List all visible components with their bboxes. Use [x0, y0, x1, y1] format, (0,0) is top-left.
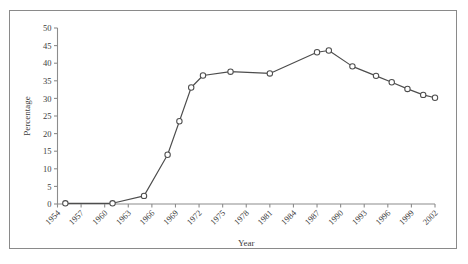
x-axis-tick-label: 1996 [373, 208, 392, 227]
y-axis-tick-label: 40 [43, 58, 52, 68]
x-axis-tick-label: 1990 [326, 208, 345, 227]
y-axis-tick-label: 0 [47, 199, 51, 209]
x-axis-tick-label: 1993 [350, 208, 369, 227]
chart-figure: 0510152025303540455019541957196019631966… [0, 0, 468, 264]
x-axis-tick-label: 1984 [279, 207, 299, 227]
y-axis-tick-label: 20 [43, 129, 52, 139]
data-point-marker [228, 69, 233, 74]
x-axis-tick-label: 1969 [161, 208, 180, 227]
line-chart-canvas: 0510152025303540455019541957196019631966… [0, 0, 468, 264]
data-point-marker [314, 50, 319, 55]
x-axis-tick-label: 2002 [421, 208, 440, 227]
x-axis-tick-label: 1978 [232, 208, 251, 227]
data-point-marker [177, 119, 182, 124]
data-point-marker [389, 80, 394, 85]
y-axis-title: Percentage [22, 96, 32, 135]
x-axis-tick-label: 1981 [255, 208, 274, 227]
x-axis-tick-label: 1954 [43, 207, 63, 227]
data-point-marker [141, 193, 146, 198]
x-axis-tick-label: 1960 [90, 208, 109, 227]
x-axis-tick-label: 1966 [137, 208, 156, 227]
y-axis-tick-label: 25 [43, 111, 52, 121]
y-axis-tick-label: 10 [43, 164, 52, 174]
data-point-marker [421, 92, 426, 97]
y-axis-tick-label: 15 [43, 146, 52, 156]
data-point-marker [63, 201, 68, 206]
y-axis-tick-label: 50 [43, 23, 52, 33]
y-axis-tick-label: 5 [47, 182, 51, 192]
data-point-marker [267, 71, 272, 76]
x-axis-tick-label: 1987 [303, 208, 322, 227]
y-axis-tick-label: 30 [43, 94, 52, 104]
data-point-marker [350, 64, 355, 69]
data-point-marker [189, 85, 194, 90]
x-axis-title: Year [238, 238, 255, 248]
x-axis-tick-label: 1972 [185, 208, 204, 227]
data-point-marker [110, 201, 115, 206]
data-point-marker [165, 152, 170, 157]
y-axis-tick-label: 45 [43, 41, 52, 51]
data-point-marker [432, 95, 437, 100]
x-axis-tick-label: 1999 [397, 208, 416, 227]
x-axis-tick-label: 1963 [114, 208, 133, 227]
data-point-marker [373, 73, 378, 78]
y-axis-tick-label: 35 [43, 76, 52, 86]
data-point-marker [200, 73, 205, 78]
x-axis-tick-label: 1957 [67, 208, 86, 227]
data-point-marker [326, 48, 331, 53]
x-axis-tick-label: 1975 [208, 208, 227, 227]
data-point-marker [405, 86, 410, 91]
data-series-line [65, 51, 435, 204]
